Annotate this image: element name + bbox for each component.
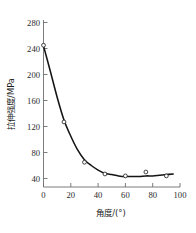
y-tick-label: 160	[27, 96, 40, 106]
y-tick-label: 40	[31, 174, 40, 184]
chart-canvas: 4080120160200240280 020406080100 角度/(°) …	[0, 0, 196, 233]
y-tick-label: 80	[31, 148, 40, 158]
y-tick-label: 280	[27, 18, 40, 28]
y-tick-label: 120	[27, 122, 40, 132]
x-tick-label: 20	[67, 190, 76, 200]
x-tick-label: 100	[174, 190, 187, 200]
x-tick-label: 40	[94, 190, 103, 200]
data-point	[124, 174, 128, 178]
data-point	[62, 120, 66, 124]
y-axis-title: 拉伸强度/MPa	[6, 78, 16, 130]
y-axis-ticks: 4080120160200240280	[27, 18, 47, 184]
data-point	[164, 174, 168, 178]
tensile-strength-vs-angle-chart: 4080120160200240280 020406080100 角度/(°) …	[0, 0, 196, 233]
y-tick-label: 240	[27, 44, 40, 54]
fit-curve	[44, 46, 174, 177]
x-tick-label: 80	[148, 190, 157, 200]
y-tick-label: 200	[27, 70, 40, 80]
x-axis-ticks: 020406080100	[41, 183, 186, 200]
data-point	[83, 160, 87, 164]
data-point	[42, 43, 46, 47]
x-axis-title: 角度/(°)	[96, 208, 126, 218]
x-tick-label: 60	[121, 190, 130, 200]
x-tick-label: 0	[41, 190, 45, 200]
data-point	[144, 170, 148, 174]
data-point	[103, 172, 107, 176]
